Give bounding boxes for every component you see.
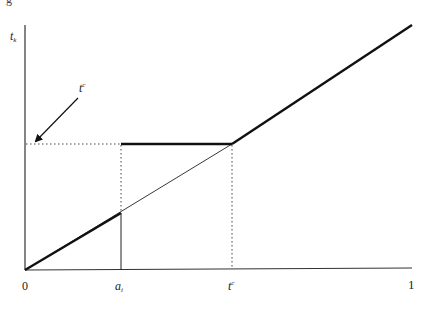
x-tick-tc: tc bbox=[228, 280, 234, 292]
tc-annotation-label: tc bbox=[79, 82, 85, 94]
thick-schedule-line bbox=[25, 213, 121, 270]
tc-arrow bbox=[36, 98, 78, 141]
x-tick-origin: 0 bbox=[22, 280, 28, 292]
y-axis-label: tk bbox=[10, 30, 16, 44]
diagram-canvas bbox=[0, 0, 431, 314]
x-tick-one: 1 bbox=[408, 278, 415, 291]
upper-diagonal bbox=[232, 25, 412, 144]
x-axis bbox=[25, 268, 412, 270]
x-tick-ai: ai bbox=[115, 280, 123, 294]
